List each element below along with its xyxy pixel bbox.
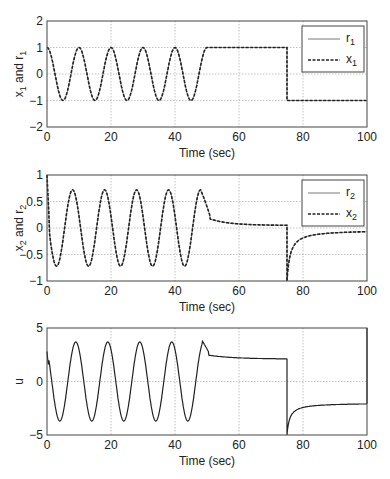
- y-label-mid: and r: [12, 210, 26, 241]
- x-tick-label: 60: [232, 438, 246, 452]
- y-tick-label: 0: [36, 67, 43, 81]
- x-tick-label: 60: [232, 284, 246, 298]
- y-tick-label: 0: [36, 375, 43, 389]
- legend: r1x1: [302, 26, 364, 72]
- x-tick-label: 0: [44, 284, 51, 298]
- legend-label-sub: 1: [350, 37, 355, 47]
- x-tick-label: 40: [168, 438, 182, 452]
- x-tick-label: 0: [44, 438, 51, 452]
- x-tick-label: 80: [296, 130, 310, 144]
- y-tick-label: −5: [29, 428, 43, 442]
- y-axis-label: x1 and r1: [12, 51, 28, 98]
- x-tick-label: 100: [357, 284, 377, 298]
- x-tick-label: 40: [168, 284, 182, 298]
- y-label-main: u: [12, 378, 26, 385]
- y-tick-label: 5: [36, 321, 43, 335]
- legend-label-sub: 2: [350, 191, 355, 201]
- y-tick-label: −1: [29, 94, 43, 108]
- x-tick-label: 20: [104, 284, 118, 298]
- x-tick-label: 100: [357, 438, 377, 452]
- x-tick-label: 20: [104, 438, 118, 452]
- y-tick-label: 0: [36, 221, 43, 235]
- legend: r2x2: [302, 180, 364, 226]
- x-tick-label: 80: [296, 438, 310, 452]
- y-tick-label: 2: [36, 14, 43, 28]
- panel-x1: 020406080100−2−1012Time (sec)x1 and r1r1…: [12, 14, 377, 160]
- y-tick-label: 0.5: [26, 195, 43, 209]
- y-tick-label: 1: [36, 41, 43, 55]
- y-axis-label: x2 and r2: [12, 205, 28, 252]
- x-tick-label: 20: [104, 130, 118, 144]
- legend-label-sub: 2: [352, 212, 357, 222]
- y-label-sub: 1: [18, 51, 28, 56]
- legend-label-sub: 1: [352, 58, 357, 68]
- y-axis-label: u: [12, 378, 26, 385]
- panel-u: 020406080100−505Time (sec)u: [12, 321, 377, 468]
- x-tick-label: 80: [296, 284, 310, 298]
- x-axis-label: Time (sec): [179, 146, 235, 160]
- y-label-mid: and r: [12, 56, 26, 87]
- x-tick-label: 40: [168, 130, 182, 144]
- x-axis-label: Time (sec): [179, 454, 235, 468]
- x-tick-label: 100: [357, 130, 377, 144]
- y-tick-label: 1: [36, 168, 43, 182]
- figure: 020406080100−2−1012Time (sec)x1 and r1r1…: [0, 0, 390, 479]
- panel-x2: 020406080100−1−0.500.51Time (sec)x2 and …: [12, 168, 377, 314]
- y-tick-label: −1: [29, 274, 43, 288]
- x-axis-label: Time (sec): [179, 300, 235, 314]
- y-tick-label: −2: [29, 120, 43, 134]
- x-tick-label: 60: [232, 130, 246, 144]
- y-label-sub: 2: [18, 205, 28, 210]
- x-tick-label: 0: [44, 130, 51, 144]
